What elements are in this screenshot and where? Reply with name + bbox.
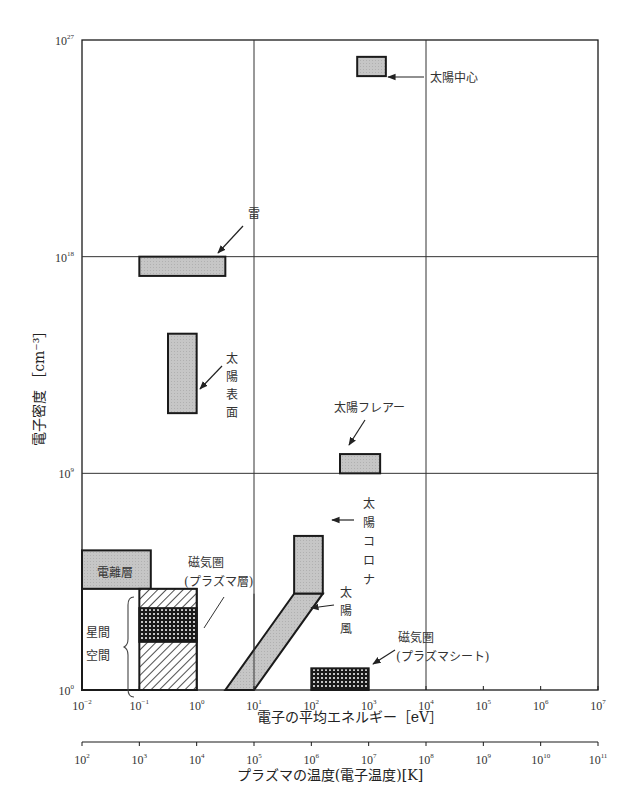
label-corona: コ: [363, 535, 375, 549]
label-interstellar: 星間: [86, 626, 110, 640]
label-corona: 陽: [363, 516, 375, 530]
arrow-lightning: [218, 226, 243, 253]
label-plasmasheet: (プラズマシート): [396, 649, 489, 664]
label-corona: ナ: [363, 573, 375, 587]
x-tick-label: 107: [590, 698, 606, 713]
secondary-x-tick-label: 109: [476, 752, 492, 767]
label-interstellar: 空間: [86, 649, 110, 663]
x-tick-label: 10−1: [130, 698, 150, 713]
plot-area: [82, 40, 598, 746]
x-tick-label: 105: [476, 698, 492, 713]
region-太陽風: [225, 594, 322, 690]
secondary-x-tick-label: 103: [132, 752, 148, 767]
region-磁気圏(プラズマシート): [311, 668, 368, 690]
label-solar-wind: 陽: [340, 604, 352, 618]
label-plasmasphere: (プラズマ層): [184, 574, 253, 589]
secondary-x-tick-label: 108: [418, 752, 434, 767]
region-雷: [139, 257, 225, 276]
x-tick-label: 100: [189, 698, 205, 713]
label-sun-surface: 表: [226, 388, 238, 402]
region-太陽表面: [168, 334, 197, 413]
y-tick-label: 1018: [55, 250, 75, 265]
y-tick-label: 109: [59, 466, 75, 481]
label-solar-flare: 太陽フレアー: [334, 400, 405, 415]
y-tick-label: 100: [59, 683, 75, 698]
secondary-x-tick-label: 1011: [589, 752, 608, 767]
label-plasmasheet: 磁気圏: [398, 630, 434, 645]
label-lightning: 雷: [248, 207, 260, 221]
label-corona: 太: [363, 496, 375, 511]
secondary-x-axis-title: プラズマの温度(電子温度)[K]: [237, 767, 423, 783]
label-sun-core: 太陽中心: [430, 70, 478, 85]
secondary-x-tick-label: 104: [189, 752, 205, 767]
secondary-x-tick-label: 106: [304, 752, 320, 767]
label-sun-surface: 太: [226, 351, 238, 366]
arrow-sun-surface: [200, 366, 222, 389]
secondary-x-tick-label: 107: [361, 752, 377, 767]
leader-plasmasphere: [204, 597, 224, 628]
secondary-x-tick-label: 1010: [531, 752, 551, 767]
label-solar-wind: 太: [340, 585, 352, 600]
label-plasmasphere: 磁気圏: [188, 555, 224, 570]
label-ionosphere: 電離層: [97, 566, 133, 580]
label-sun-surface: 陽: [226, 370, 238, 384]
label-corona: ロ: [363, 554, 375, 568]
label-sun-surface: 面: [226, 406, 238, 420]
arrow-solar-flare: [349, 420, 365, 445]
region-太陽フレアー: [340, 454, 380, 473]
y-tick-label: 1027: [55, 33, 75, 48]
region-太陽コロナ: [294, 536, 323, 594]
y-axis-title: 電子密度 ［cm⁻³］: [31, 324, 47, 447]
region-磁気圏(プラズマ層)-dense-band: [139, 608, 196, 642]
x-tick-label: 10−2: [72, 698, 92, 713]
label-solar-wind: 風: [340, 622, 352, 636]
secondary-x-tick-label: 102: [74, 752, 90, 767]
plasma-density-chart: 1001091018102710−210−1100101102103104105…: [0, 0, 634, 812]
secondary-x-tick-label: 105: [246, 752, 262, 767]
x-axis-title: 電子の平均エネルギー［eV］: [257, 709, 443, 725]
region-太陽中心: [357, 57, 386, 76]
arrow-plasmasheet: [373, 650, 395, 664]
x-tick-label: 106: [533, 698, 549, 713]
